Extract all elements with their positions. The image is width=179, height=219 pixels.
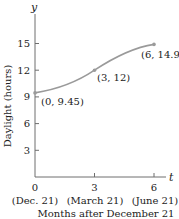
y-tick-label: 3 <box>24 145 30 156</box>
y-axis-label: Daylight (hours) <box>2 65 13 148</box>
t-axis-symbol: t <box>169 171 174 184</box>
data-point <box>93 68 97 72</box>
daylight-chart: y t 3 6 9 12 15 0 3 6 (Dec. 21) (March 2… <box>0 0 179 219</box>
x-tick-label: 0 <box>32 182 38 193</box>
y-tick-label: 12 <box>17 65 30 76</box>
x-tick-label: 3 <box>91 182 97 193</box>
y-axis-symbol: y <box>30 1 38 14</box>
y-tick-label: 15 <box>17 38 30 49</box>
x-ticks <box>95 173 155 177</box>
x-axis-label: Months after December 21 <box>38 208 175 219</box>
data-point <box>152 43 156 47</box>
data-point <box>33 91 37 95</box>
point-annotation: (3, 12) <box>97 72 130 83</box>
x-tick-label: 6 <box>151 182 157 193</box>
chart-svg: y t 3 6 9 12 15 0 3 6 (Dec. 21) (March 2… <box>0 0 179 219</box>
x-tick-sublabel: (Dec. 21) <box>12 195 59 206</box>
y-tick-label: 6 <box>24 118 30 129</box>
y-tick-label: 9 <box>24 91 30 102</box>
point-annotation: (0, 9.45) <box>41 96 84 107</box>
x-tick-sublabel: (June 21) <box>132 195 179 206</box>
x-tick-sublabel: (March 21) <box>67 195 124 206</box>
y-ticks <box>35 44 39 151</box>
point-annotation: (6, 14.9) <box>141 49 179 60</box>
